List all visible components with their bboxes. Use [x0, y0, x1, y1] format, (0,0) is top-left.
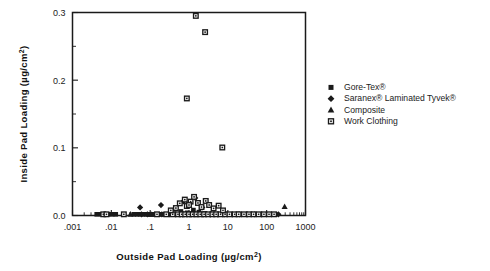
- data-point: [192, 195, 197, 200]
- legend-label: Composite: [344, 105, 385, 115]
- data-point: [158, 202, 164, 208]
- x-tick-label: 10: [223, 222, 233, 232]
- legend-label: Work Clothing: [344, 116, 398, 126]
- data-point: [155, 212, 160, 217]
- legend-label: Gore-Tex®: [344, 82, 386, 92]
- y-tick-label: 0.3: [53, 8, 66, 18]
- data-point: [104, 212, 109, 217]
- legend: Gore-Tex®Saranex® Laminated Tyvek®Compos…: [328, 82, 457, 126]
- legend-item: Saranex® Laminated Tyvek®: [328, 93, 457, 103]
- legend-item: Work Clothing: [329, 116, 399, 126]
- y-tick-label: 0.1: [53, 143, 66, 153]
- axes-group: [73, 13, 306, 216]
- data-points-group: [94, 14, 287, 218]
- data-point: [178, 201, 183, 206]
- data-point: [211, 206, 216, 211]
- data-point: [221, 208, 226, 213]
- data-point: [194, 14, 199, 19]
- x-tick-label: 100: [259, 222, 274, 232]
- data-point: [272, 212, 277, 217]
- x-tick-label: .01: [105, 222, 118, 232]
- data-point: [267, 212, 272, 217]
- data-point: [262, 212, 267, 217]
- x-tick-label: 1: [186, 222, 191, 232]
- data-point: [137, 204, 143, 210]
- data-point: [251, 212, 256, 217]
- data-point: [113, 212, 118, 217]
- data-point: [94, 212, 99, 217]
- y-axis-title: Inside Pad Loading (µg/cm2): [18, 45, 29, 182]
- data-point: [122, 212, 127, 217]
- x-tick-label: .1: [146, 222, 154, 232]
- data-point: [242, 212, 247, 217]
- data-point: [183, 197, 188, 202]
- data-point: [174, 206, 179, 211]
- plot-frame: [73, 13, 306, 216]
- legend-marker-filled-square: [329, 85, 334, 90]
- legend-marker-open-square-dot: [329, 119, 334, 124]
- data-point: [236, 212, 241, 217]
- data-point: [282, 203, 288, 209]
- x-tick-label: 1000: [295, 222, 315, 232]
- legend-label: Saranex® Laminated Tyvek®: [344, 93, 457, 103]
- y-tick-label: 0.2: [53, 76, 66, 86]
- data-point: [247, 212, 252, 217]
- plot-canvas: 0.00.10.20.3.001.01.11101001000Outside P…: [0, 0, 490, 271]
- x-axis-title: Outside Pad Loading (µg/cm2): [116, 251, 261, 262]
- axis-labels-group: 0.00.10.20.3.001.01.11101001000Outside P…: [18, 8, 316, 262]
- data-point: [169, 208, 174, 213]
- y-tick-label: 0.0: [53, 211, 66, 221]
- data-point: [199, 205, 204, 210]
- data-point: [203, 30, 208, 35]
- data-point: [216, 203, 221, 208]
- data-point: [185, 96, 190, 101]
- data-point: [227, 212, 232, 217]
- data-point: [220, 145, 225, 150]
- data-point: [256, 212, 261, 217]
- series-3: [101, 14, 276, 217]
- scatter-plot-figure: 0.00.10.20.3.001.01.11101001000Outside P…: [0, 0, 490, 271]
- legend-item: Composite: [328, 105, 386, 115]
- x-tick-label: .001: [64, 222, 82, 232]
- legend-marker-filled-triangle: [328, 106, 335, 112]
- legend-item: Gore-Tex®: [329, 82, 387, 92]
- legend-marker-filled-diamond: [328, 95, 335, 102]
- data-point: [187, 203, 192, 208]
